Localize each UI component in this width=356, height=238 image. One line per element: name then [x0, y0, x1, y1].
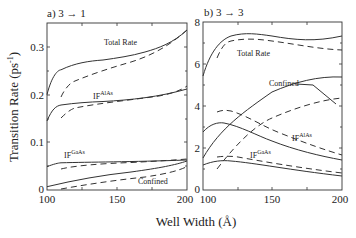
panel-b-curves: [203, 34, 342, 176]
panel-b-frame: [203, 22, 342, 190]
b-confined-solid: [203, 77, 342, 158]
x-axis-label: Well Width (Å): [156, 214, 237, 229]
b-confined-dashed: [217, 98, 342, 169]
panel-a: a) 3 → 1 0.3 0.2 0.1 0 100 150 200: [30, 7, 194, 205]
a-ifalas-dashed: [61, 86, 187, 118]
a-label-ifgaas: IFGaAs: [64, 149, 85, 160]
b-label-ifgaas: IFGaAs: [250, 149, 271, 160]
panel-b-x-ticks: 100 150 200: [200, 22, 349, 205]
b-total-rate-solid: [203, 34, 342, 76]
panel-a-curves: [47, 30, 187, 189]
panel-a-title: a) 3 → 1: [47, 7, 86, 20]
b-label-total-rate: Total Rate: [237, 49, 270, 58]
panel-a-frame: [47, 23, 187, 190]
svg-text:6: 6: [195, 58, 201, 70]
a-label-total-rate: Total Rate: [104, 38, 137, 47]
b-confined-leader-line: [296, 84, 336, 104]
a-confined-dashed: [61, 167, 187, 189]
panel-b: b) 3 → 3 8 6 4 2 0 100 150 200: [195, 6, 349, 205]
chart-figure: Transition Rate (ps-1) Well Width (Å) a)…: [0, 0, 356, 238]
panel-a-y-ticks: 0.3 0.2 0.1 0: [30, 41, 187, 195]
b-ifalas-dashed: [217, 110, 342, 155]
svg-text:8: 8: [195, 16, 201, 28]
svg-text:200: 200: [177, 193, 194, 205]
b-label-confined: Confined: [269, 79, 299, 88]
svg-text:2: 2: [195, 142, 201, 154]
svg-text:150: 150: [264, 193, 281, 205]
svg-text:0.1: 0.1: [30, 136, 44, 148]
svg-text:150: 150: [109, 193, 126, 205]
b-ifalas-solid: [203, 123, 342, 160]
svg-text:100: 100: [39, 193, 56, 205]
b-ifgaas-solid: [203, 161, 342, 176]
a-label-ifalas: IFAlAs: [93, 90, 113, 101]
panel-b-y-ticks: 8 6 4 2 0: [195, 16, 343, 195]
a-ifalas-solid: [47, 89, 187, 121]
b-total-rate-dashed: [217, 39, 342, 58]
y-axis-label: Transition Rate (ps-1): [6, 52, 21, 162]
svg-text:0.3: 0.3: [30, 41, 44, 53]
b-ifgaas-dashed: [217, 156, 342, 173]
svg-text:200: 200: [332, 193, 349, 205]
panel-a-x-ticks: 100 150 200: [39, 23, 194, 205]
svg-text:100: 100: [200, 193, 217, 205]
svg-text:4: 4: [195, 100, 201, 112]
a-label-confined: Confined: [138, 177, 168, 186]
svg-text:0.2: 0.2: [30, 89, 44, 101]
panel-b-title: b) 3 → 3: [204, 6, 244, 19]
